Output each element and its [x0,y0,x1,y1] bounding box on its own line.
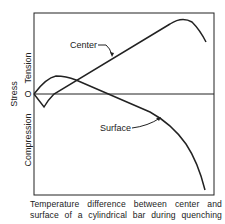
center-pointer [98,45,112,55]
diagram-caption: Temperature difference between center an… [30,199,222,221]
stress-diagram: Center Surface O Stress Tension Compress… [0,0,225,224]
caption-line-2: surface of a cylindrical bar during quen… [30,210,222,221]
zero-label: O [24,89,31,99]
tension-label: Tension [23,52,33,83]
center-arrowhead [110,52,114,57]
compression-label: Compression [23,113,33,166]
plot-frame [34,13,214,195]
y-axis-title: Stress [9,81,19,107]
caption-line-1: Temperature difference between center an… [30,199,222,210]
surface-pointer [132,118,160,128]
center-label: Center [70,40,97,50]
surface-label: Surface [100,123,131,133]
surface-curve [34,76,205,190]
